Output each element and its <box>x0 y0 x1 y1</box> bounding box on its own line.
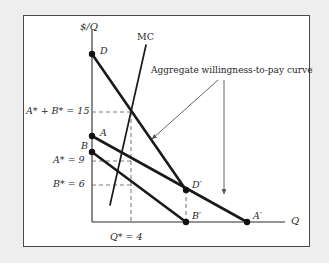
figure-root: $/Q Q MC D A B D′ B′ A′ A* + B* = 15 A* … <box>0 0 329 263</box>
q-value-label: Q* = 4 <box>110 232 143 242</box>
chart-canvas <box>0 0 329 263</box>
point-b-prime-label: B′ <box>192 211 201 221</box>
point-b-prime <box>183 219 189 225</box>
arrow-to-aggregate-curve <box>152 80 218 139</box>
aggregate-curve-annotation: Aggregate willingness-to-pay curve <box>151 66 312 75</box>
mc-curve-label: MC <box>137 32 154 42</box>
b-value-label: B* = 6 <box>53 179 85 189</box>
point-d-prime-label: D′ <box>192 180 202 190</box>
point-a-prime-label: A′ <box>253 211 262 221</box>
point-a-label: A <box>100 128 107 138</box>
data-points-group <box>89 51 250 225</box>
axis-group <box>92 30 285 222</box>
a-value-label: A* = 9 <box>53 155 85 165</box>
point-b-label: B <box>81 141 88 151</box>
point-a-prime <box>244 219 250 225</box>
point-a <box>89 133 95 139</box>
sum-value-label: A* + B* = 15 <box>26 106 89 116</box>
annotation-arrows-group <box>152 80 224 194</box>
x-axis-label: Q <box>291 216 299 226</box>
point-d <box>89 51 95 57</box>
point-d-label: D <box>100 46 108 56</box>
y-axis-label: $/Q <box>80 22 98 32</box>
point-b <box>89 149 95 155</box>
point-d-prime <box>183 187 189 193</box>
